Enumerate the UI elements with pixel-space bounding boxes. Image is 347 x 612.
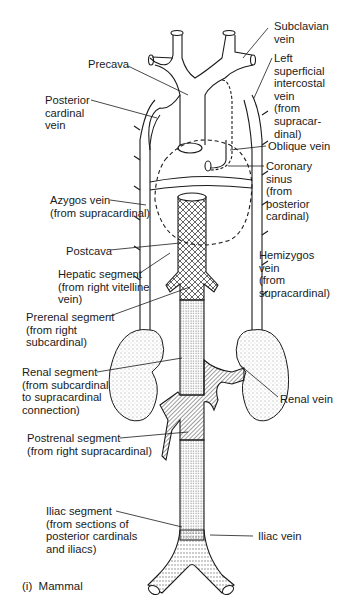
label-oblique-vein: Oblique vein: [268, 140, 330, 153]
label-subclavian-vein: Subclavian vein: [274, 20, 329, 45]
label-renal-segment: Renal segment (from subcardinal to supra…: [22, 366, 108, 416]
label-posterior-cardinal-vein: Posterior cardinal vein: [45, 94, 90, 132]
prerenal-segment: [180, 300, 204, 395]
label-iliac-vein: Iliac vein: [258, 530, 302, 543]
label-postrenal-segment: Postrenal segment (from right supracardi…: [27, 432, 152, 457]
postrenal-segment: [180, 440, 204, 540]
label-renal-vein: Renal vein: [280, 393, 333, 406]
iliac-segment: [148, 530, 234, 593]
label-azygos-vein: Azygos vein (from supracardinal): [50, 194, 150, 219]
label-hemizygos-vein: Hemizygos vein (from supracardinal): [259, 249, 330, 299]
label-iliac-segment: Iliac segment (from sections of posterio…: [46, 505, 137, 555]
label-left-superficial-intercostal-vein: Left superficial intercostal vein (from …: [274, 52, 325, 140]
label-prerenal-segment: Prerenal segment (from right subcardinal…: [26, 311, 114, 349]
figure-caption: (i) Mammal: [22, 580, 83, 593]
label-coronary-sinus: Coronary sinus (from posterior cardinal): [266, 160, 312, 223]
label-precava: Precava: [88, 58, 129, 71]
right-kidney: [109, 330, 163, 421]
postcava-hepatic-segment: [166, 193, 218, 300]
label-postcava: Postcava: [66, 245, 112, 258]
label-hepatic-segment: Hepatic segment (from right vitelline ve…: [58, 268, 149, 306]
